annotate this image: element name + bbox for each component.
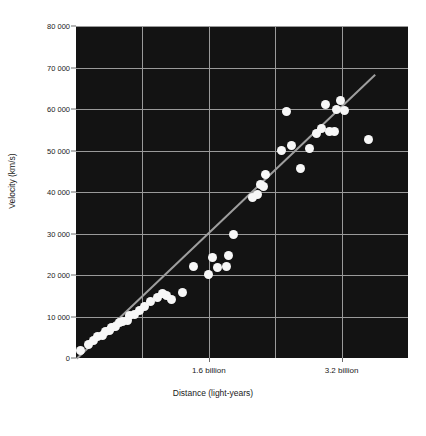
data-point (208, 253, 217, 262)
gridline-horizontal (76, 234, 408, 235)
gridline-vertical (209, 26, 210, 358)
data-point (282, 107, 291, 116)
x-axis-tick-mark (342, 358, 343, 362)
gridline-vertical (342, 26, 343, 358)
data-point (189, 262, 198, 271)
y-axis-tick-label: 60 000 (0, 105, 70, 114)
data-point (364, 135, 373, 144)
plot-area (76, 26, 408, 358)
y-axis-tick-label: 0 (0, 354, 70, 363)
y-axis-tick-mark (71, 192, 76, 193)
gridline-horizontal (76, 68, 408, 69)
data-point (224, 251, 233, 260)
gridline-horizontal (76, 275, 408, 276)
y-axis-title: Velocity (km/s) (7, 121, 17, 241)
y-axis-tick-mark (71, 233, 76, 234)
y-axis-tick-label: 70 000 (0, 63, 70, 72)
x-axis-title: Distance (light-years) (0, 388, 426, 398)
y-axis-tick-mark (71, 316, 76, 317)
data-point (178, 288, 187, 297)
data-point (261, 170, 270, 179)
gridline-horizontal (76, 151, 408, 152)
data-point (204, 270, 213, 279)
data-point (213, 263, 222, 272)
gridline-vertical (275, 26, 276, 358)
data-point (340, 106, 349, 115)
data-point (222, 262, 231, 271)
gridline-horizontal (76, 192, 408, 193)
y-axis-tick-mark (71, 67, 76, 68)
y-axis-tick-mark (71, 275, 76, 276)
gridline-horizontal (76, 26, 408, 27)
data-point (296, 164, 305, 173)
y-axis-tick-mark (71, 26, 76, 27)
data-point (321, 100, 330, 109)
y-axis-tick-label: 20 000 (0, 271, 70, 280)
gridline-horizontal (76, 109, 408, 110)
data-point (167, 295, 176, 304)
y-axis-tick-label: 80 000 (0, 22, 70, 31)
x-axis-tick-label: 3.2 billion (325, 366, 359, 375)
data-point (305, 144, 314, 153)
y-axis-tick-mark (71, 150, 76, 151)
data-point (330, 127, 339, 136)
data-point (253, 190, 262, 199)
y-axis-tick-label: 10 000 (0, 312, 70, 321)
x-axis-tick-label: 1.6 billion (192, 366, 226, 375)
y-axis-tick-mark (71, 109, 76, 110)
y-axis-tick-mark (71, 358, 76, 359)
data-point (259, 182, 268, 191)
hubble-diagram-figure: 010 00020 00030 00040 00050 00060 00070 … (0, 0, 426, 436)
data-point (277, 146, 286, 155)
x-axis-tick-mark (209, 358, 210, 362)
data-point (229, 230, 238, 239)
